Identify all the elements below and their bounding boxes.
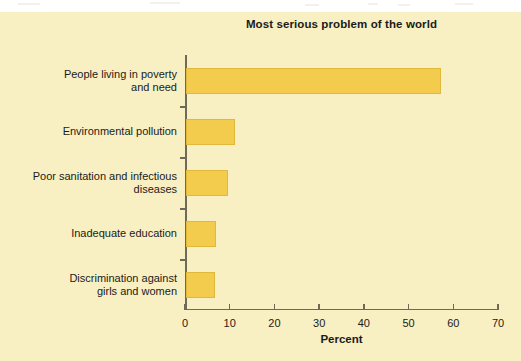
scan-speck (398, 4, 410, 6)
scan-speck (18, 3, 40, 5)
x-axis-tick-label: 50 (402, 317, 414, 329)
scan-speck (150, 2, 180, 4)
x-axis-tick (184, 304, 186, 310)
category-axis-labels: People living in poverty and needEnviron… (8, 55, 177, 310)
x-axis-tick-label: 10 (224, 317, 236, 329)
bar (186, 119, 235, 145)
x-axis-tick-label: 40 (358, 317, 370, 329)
bar (186, 68, 441, 94)
x-axis-tick-label: 70 (492, 317, 504, 329)
bar (186, 221, 216, 247)
y-axis-tick (180, 208, 185, 210)
chart-title: Most serious problem of the world (185, 18, 498, 30)
x-axis-tick-label: 0 (182, 317, 188, 329)
x-axis-title: Percent (185, 333, 498, 345)
category-label: Inadequate education (9, 227, 177, 240)
scan-artifact-strip (0, 0, 521, 12)
bar (186, 272, 215, 298)
x-axis-tick (453, 304, 455, 310)
scan-speck (455, 3, 473, 5)
x-axis-tick (363, 304, 365, 310)
x-axis-tick-label: 20 (268, 317, 280, 329)
category-label: Environmental pollution (9, 125, 177, 138)
x-axis-tick (408, 304, 410, 310)
category-label: Discrimination against girls and women (9, 272, 177, 298)
x-axis-tick-label: 30 (313, 317, 325, 329)
y-axis-tick (180, 259, 185, 261)
scan-speck (368, 3, 378, 5)
x-axis-tick (274, 304, 276, 310)
plot-area: 010203040506070 (185, 55, 498, 310)
x-axis-line (185, 309, 498, 311)
category-label: People living in poverty and need (9, 68, 177, 94)
scan-speck (305, 4, 319, 6)
x-axis-tick-label: 60 (447, 317, 459, 329)
y-axis-tick (180, 106, 185, 108)
y-axis-tick (180, 157, 185, 159)
x-axis-tick (229, 304, 231, 310)
x-axis-tick (318, 304, 320, 310)
bar (186, 170, 228, 196)
x-axis-tick (497, 304, 499, 310)
category-label: Poor sanitation and infectious diseases (9, 170, 177, 196)
